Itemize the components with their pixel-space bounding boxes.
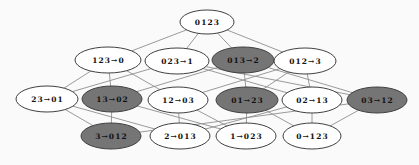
- graph-node-03-12: 03→12: [347, 87, 407, 113]
- graph-node-2-013: 2→013: [150, 123, 210, 149]
- node-label: 02→13: [296, 96, 329, 105]
- graph-node-01-23: 01→23: [216, 87, 278, 113]
- graph-node-0-123: 0→123: [283, 123, 341, 149]
- node-label: 012→3: [289, 57, 322, 66]
- node-label: 023→1: [161, 57, 194, 66]
- node-label: 0→123: [296, 132, 329, 141]
- graph-node-1-023: 1→023: [216, 123, 276, 149]
- node-label: 013→2: [227, 56, 260, 65]
- node-label: 123→0: [92, 56, 125, 65]
- node-label: 23→01: [31, 95, 64, 104]
- node-label: 01→23: [231, 96, 264, 105]
- graph-node-12-03: 12→03: [148, 87, 208, 113]
- node-label: 0123: [195, 18, 220, 27]
- graph-node-02-13: 02→13: [282, 87, 342, 113]
- node-label: 1→023: [230, 132, 263, 141]
- graph-node-13-02: 13→02: [82, 86, 142, 112]
- graph-node-0123: 0123: [180, 10, 234, 34]
- node-label: 12→03: [162, 96, 195, 105]
- graph-node-013-2: 013→2: [212, 47, 274, 73]
- diagram-canvas: 0123123→0023→1013→2012→323→0113→0212→030…: [0, 0, 419, 165]
- node-label: 03→12: [361, 96, 394, 105]
- graph-node-123-0: 123→0: [75, 47, 141, 73]
- node-label: 13→02: [96, 95, 129, 104]
- node-label: 3→012: [95, 132, 128, 141]
- node-label: 2→013: [164, 132, 197, 141]
- graph-node-3-012: 3→012: [81, 123, 141, 149]
- graph-node-023-1: 023→1: [145, 48, 209, 74]
- graph-node-23-01: 23→01: [16, 86, 78, 112]
- lattice-diagram: 0123123→0023→1013→2012→323→0113→0212→030…: [0, 0, 419, 165]
- graph-node-012-3: 012→3: [274, 48, 336, 74]
